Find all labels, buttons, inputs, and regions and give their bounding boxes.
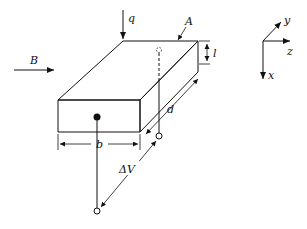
slab-right-face	[140, 41, 198, 132]
y-axis-label: y	[283, 14, 291, 27]
front-contact	[94, 114, 101, 121]
slab	[58, 41, 198, 132]
field-label: B	[29, 54, 38, 67]
y-axis	[263, 22, 281, 41]
back-contact	[157, 48, 162, 53]
thickness-label: l	[213, 47, 217, 60]
thickness-dimension	[199, 41, 210, 64]
x-axis-label: x	[268, 69, 275, 82]
area-label: A	[184, 15, 193, 28]
depth-label: d	[167, 103, 174, 116]
front-terminal	[94, 208, 100, 214]
flux-label: q	[128, 12, 135, 25]
voltage-label: ΔV	[118, 163, 136, 176]
back-terminal	[156, 133, 162, 139]
z-axis-label: z	[286, 45, 293, 58]
area-leader	[178, 27, 186, 40]
slab-top-face	[58, 41, 198, 100]
hall-effect-diagram: B q A l d b ΔV	[0, 0, 307, 229]
